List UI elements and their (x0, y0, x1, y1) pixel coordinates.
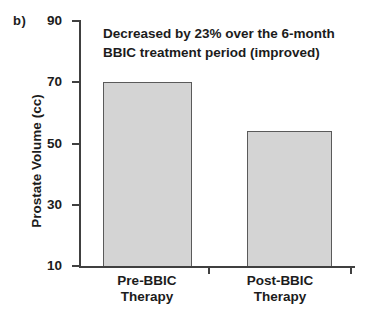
x-tick-mid (208, 268, 210, 274)
x-tick-right (350, 268, 352, 274)
x-label-line-2: Therapy (87, 289, 207, 305)
y-axis-title: Prostate Volume (cc) (29, 94, 44, 227)
bar-post-bbic-therapy (247, 131, 332, 266)
panel-label: b) (13, 13, 26, 28)
x-label-line-1: Post-BBIC (220, 273, 340, 289)
y-tick-label: 50 (47, 135, 62, 153)
x-label-post-bbic: Post-BBIC Therapy (220, 273, 340, 305)
chart-annotation: Decreased by 23% over the 6-month BBIC t… (103, 24, 335, 62)
y-tick-mark (72, 20, 81, 22)
y-tick-label: 30 (47, 196, 62, 214)
y-tick-label: 70 (47, 73, 62, 91)
plot-area: Decreased by 23% over the 6-month BBIC t… (79, 21, 355, 268)
y-tick-mark (72, 204, 81, 206)
x-label-pre-bbic: Pre-BBIC Therapy (87, 273, 207, 305)
x-label-line-2: Therapy (220, 289, 340, 305)
y-tick-mark (72, 81, 81, 83)
x-label-line-1: Pre-BBIC (87, 273, 207, 289)
annotation-line-2: BBIC treatment period (improved) (103, 43, 335, 62)
annotation-line-1: Decreased by 23% over the 6-month (103, 24, 335, 43)
y-tick-mark (72, 265, 81, 267)
y-tick-label: 90 (47, 12, 62, 30)
y-tick-label: 10 (47, 257, 62, 275)
bar-chart-figure: b) Prostate Volume (cc) Decreased by 23%… (0, 0, 373, 321)
y-tick-mark (72, 143, 81, 145)
bar-pre-bbic-therapy (103, 82, 192, 266)
